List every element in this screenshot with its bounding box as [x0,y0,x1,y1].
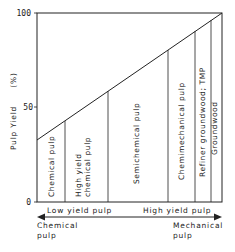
high-yield-label: High yield pulp [143,206,211,215]
mechanical-pulp-end-2: pulp [173,231,193,240]
y-tick-label-100: 100 [17,9,32,18]
arrow-left-icon [37,214,45,221]
low-yield-label: Low yield pulp [47,206,112,215]
yield-line [37,13,222,140]
y-tick-label-0: 0 [26,198,31,207]
region-refiner-groundwood-tmp: Refiner groundwood; TMP [198,67,207,177]
region-semichemical-pulp: Semichemical pulp [132,103,141,184]
pulp-yield-diagram: 100 50 0 Pulp Yield (%) Chemical pulp Hi… [0,0,235,252]
region-chemimechanical-pulp: Chemimechanical pulp [177,82,186,180]
y-axis-unit: (%) [9,72,18,87]
region-chemical-pulp: Chemical pulp [47,136,56,197]
region-high-yield-chemical-1: High yield [74,153,83,197]
y-tick-label-50: 50 [23,103,33,112]
y-axis-label: Pulp Yield [9,106,18,150]
chemical-pulp-end-2: pulp [37,231,57,240]
mechanical-pulp-end-1: Mechanical [173,221,223,230]
chemical-pulp-end-1: Chemical [37,221,78,230]
region-high-yield-chemical-2: chemical pulp [83,137,92,197]
region-groundwood: Groundwood [210,101,219,155]
arrow-right-icon [214,214,222,221]
